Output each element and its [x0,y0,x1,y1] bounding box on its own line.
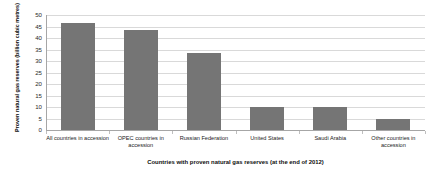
y-axis-tick-label: 50 [24,12,42,18]
x-axis-tick-mark [109,131,110,134]
y-axis-tick-label: 35 [24,47,42,53]
x-axis-title: Countries with proven natural gas reserv… [46,159,425,165]
x-axis-tick-label: All countries in accession [46,135,109,142]
x-axis-tick-mark [172,131,173,134]
y-axis-tick-label: 10 [24,104,42,110]
x-axis-tick-label: Saudi Arabia [299,135,362,142]
bar[interactable] [124,30,158,130]
y-axis-title: Proven natural gas reserves (billion cub… [14,2,21,134]
y-axis-tick-label: 45 [24,24,42,30]
bar[interactable] [61,23,95,130]
y-axis-tick-label: 30 [24,58,42,64]
bar-chart: Proven natural gas reserves (billion cub… [0,0,435,177]
bar-series [46,15,425,130]
x-axis-tick-mark [236,131,237,134]
x-axis-tick-label: OPEC countries in accession [109,135,172,150]
y-axis-tick-label: 15 [24,93,42,99]
bar[interactable] [250,107,284,130]
x-axis-tick-label: United States [236,135,299,142]
y-axis-tick-label: 25 [24,70,42,76]
bar[interactable] [376,119,410,130]
y-axis-tick-label: 0 [24,127,42,133]
y-axis-tick-label: 40 [24,35,42,41]
x-axis-tick-mark [46,131,47,134]
bar[interactable] [313,107,347,130]
x-axis-tick-mark [362,131,363,134]
x-axis-tick-label: Russian Federation [172,135,235,142]
y-axis-tick-labels: 05101520253035404550 [24,9,42,135]
x-axis-tick-label: Other countries in accession [362,135,425,150]
x-axis-tick-mark [299,131,300,134]
y-axis-tick-label: 20 [24,81,42,87]
y-axis-tick-label: 5 [24,116,42,122]
bar[interactable] [187,53,221,130]
x-axis-tick-labels: All countries in accessionOPEC countries… [46,135,425,159]
x-axis-tick-mark [425,131,426,134]
